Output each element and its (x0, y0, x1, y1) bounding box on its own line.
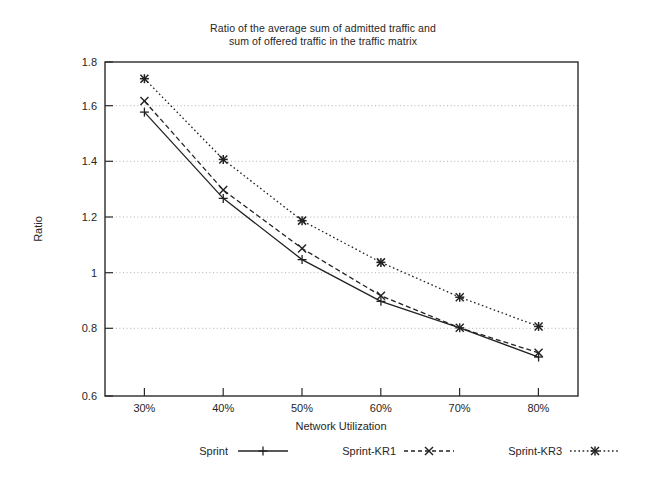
data-point (376, 258, 385, 267)
legend-swatch-sprint-kr3 (570, 447, 620, 456)
data-point (534, 322, 543, 331)
y-tick-label-3: 1.2 (82, 211, 97, 223)
data-point (298, 244, 306, 252)
series-sprint (140, 108, 543, 362)
x-axis-ticks (144, 388, 538, 396)
x-tick-label-2: 50% (291, 402, 313, 414)
legend-swatch-sprint-kr1 (404, 447, 454, 455)
y-tick-label-1: 0.8 (82, 322, 97, 334)
data-point (298, 216, 307, 225)
y-axis-tick-labels: 0.6 0.8 1 1.2 1.4 1.6 1.8 (82, 56, 97, 402)
y-tick-label-6: 1.8 (82, 56, 97, 68)
legend-swatch-sprint (238, 447, 288, 456)
y-tick-label-0: 0.6 (82, 390, 97, 402)
y-tick-label-4: 1.4 (82, 155, 97, 167)
data-point (140, 97, 148, 105)
chart-page: Ratio of the average sum of admitted tra… (0, 0, 646, 482)
series-line (144, 112, 538, 357)
chart-plot: 0.6 0.8 1 1.2 1.4 1.6 1.8 Ratio 30% 40% … (0, 0, 646, 482)
series-layer (140, 74, 543, 361)
gridlines (105, 106, 578, 329)
data-point (219, 155, 228, 164)
data-point (455, 293, 464, 302)
legend-label-sprint-kr1: Sprint-KR1 (342, 445, 396, 457)
data-point (219, 186, 227, 194)
legend-label-sprint-kr3: Sprint-KR3 (508, 445, 562, 457)
data-point (534, 353, 543, 362)
y-axis-title: Ratio (32, 216, 44, 242)
chart-legend: Sprint Sprint-KR1 Sprint-KR3 (199, 445, 620, 457)
x-tick-label-3: 60% (370, 402, 392, 414)
legend-label-sprint: Sprint (199, 445, 228, 457)
y-tick-label-5: 1.6 (82, 100, 97, 112)
y-tick-label-2: 1 (91, 267, 97, 279)
x-axis-tick-labels: 30% 40% 50% 60% 70% 80% (133, 402, 549, 414)
series-line (144, 79, 538, 327)
x-tick-label-4: 70% (449, 402, 471, 414)
x-axis-title: Network Utilization (295, 420, 386, 432)
data-point (140, 74, 149, 83)
x-tick-label-5: 80% (527, 402, 549, 414)
x-tick-label-0: 30% (133, 402, 155, 414)
y-axis-ticks (105, 62, 113, 396)
series-sprint-kr3 (140, 74, 543, 331)
x-tick-label-1: 40% (212, 402, 234, 414)
